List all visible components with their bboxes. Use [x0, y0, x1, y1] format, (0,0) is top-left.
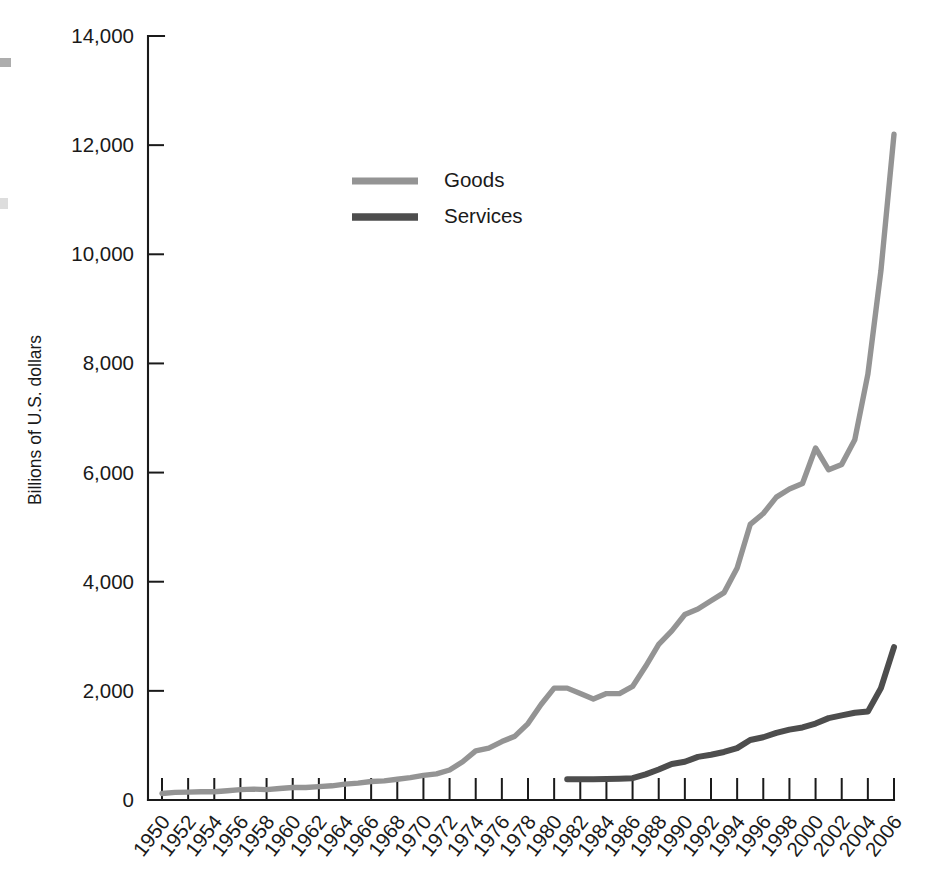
- y-tick-label: 10,000: [71, 242, 134, 265]
- y-tick-label: 8,000: [83, 351, 134, 374]
- chart-figure: 02,0004,0006,0008,00010,00012,00014,000 …: [0, 0, 935, 894]
- chart-axes: [148, 36, 894, 800]
- y-tick-label: 14,000: [71, 24, 134, 47]
- y-tick-label: 4,000: [83, 570, 134, 593]
- chart-legend: GoodsServices: [352, 168, 523, 227]
- y-tick-label: 6,000: [83, 461, 134, 484]
- y-tick-label: 2,000: [83, 679, 134, 702]
- series-line-services: [567, 647, 894, 779]
- x-axis-tick-labels: 1950195219541956195819601962196419661968…: [128, 810, 906, 860]
- y-axis-title: Billions of U.S. dollars: [25, 335, 45, 505]
- y-tick-label: 12,000: [71, 133, 134, 156]
- series-line-goods: [162, 134, 894, 793]
- y-axis-tick-labels: 02,0004,0006,0008,00010,00012,00014,000: [71, 24, 134, 811]
- legend-label-services: Services: [444, 204, 523, 227]
- y-axis-ticks: [148, 145, 164, 691]
- y-tick-label: 0: [123, 788, 134, 811]
- chart-series-group: [162, 134, 894, 793]
- legend-label-goods: Goods: [444, 168, 504, 191]
- line-chart: 02,0004,0006,0008,00010,00012,00014,000 …: [0, 0, 935, 894]
- y-axis-line: [148, 36, 164, 800]
